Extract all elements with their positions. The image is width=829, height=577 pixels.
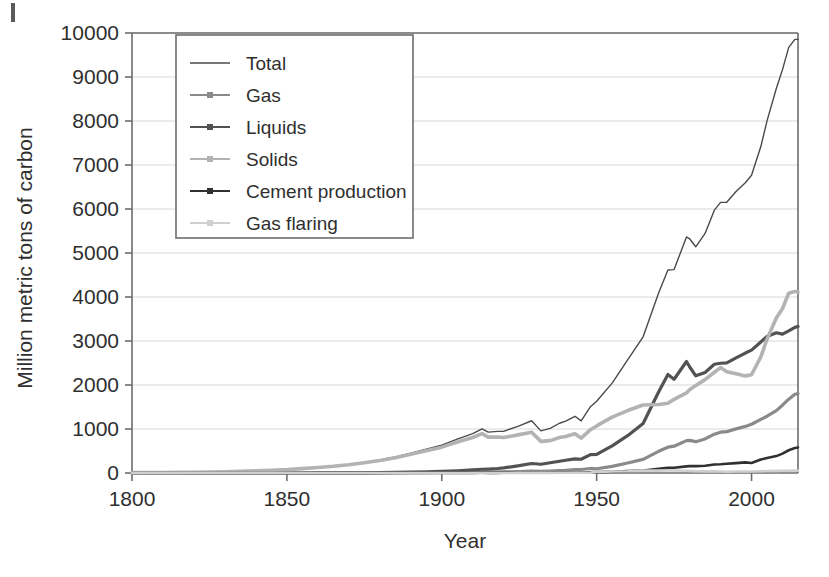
- x-tick-label: 1900: [418, 487, 465, 510]
- legend-label: Gas: [246, 85, 281, 106]
- chart-figure: Million metric tons of carbon Year 01000…: [0, 0, 829, 577]
- series-gas: [132, 394, 798, 473]
- legend-label: Cement production: [246, 181, 407, 202]
- y-axis-ticks: 0100020003000400050006000700080009000100…: [61, 21, 132, 484]
- y-tick-label: 7000: [72, 153, 119, 176]
- legend-label: Liquids: [246, 117, 306, 138]
- legend-label: Solids: [246, 149, 298, 170]
- series-solids: [132, 291, 798, 472]
- legend-swatch-marker: [207, 156, 213, 162]
- y-tick-label: 6000: [72, 197, 119, 220]
- x-axis-ticks: 18001850190019502000: [109, 473, 775, 510]
- y-tick-label: 1000: [72, 417, 119, 440]
- legend-swatch-marker: [207, 220, 213, 226]
- y-tick-label: 9000: [72, 65, 119, 88]
- emissions-line-chart: Million metric tons of carbon Year 01000…: [0, 0, 829, 577]
- x-tick-label: 1950: [573, 487, 620, 510]
- chart-legend: TotalGasLiquidsSolidsCement productionGa…: [176, 35, 413, 238]
- y-tick-label: 5000: [72, 241, 119, 264]
- series-line: [132, 291, 798, 472]
- series-liquids: [132, 326, 798, 473]
- legend-swatch-marker: [207, 124, 213, 130]
- series-line: [132, 394, 798, 473]
- x-axis-title: Year: [444, 529, 486, 552]
- y-tick-label: 4000: [72, 285, 119, 308]
- legend-swatch-marker: [207, 188, 213, 194]
- legend-swatch-marker: [207, 92, 213, 98]
- series-line: [132, 326, 798, 473]
- y-tick-label: 10000: [61, 21, 119, 44]
- legend-label: Gas flaring: [246, 213, 338, 234]
- legend-label: Total: [246, 53, 286, 74]
- y-tick-label: 3000: [72, 329, 119, 352]
- x-tick-label: 1800: [109, 487, 156, 510]
- y-tick-label: 0: [107, 461, 119, 484]
- x-tick-label: 1850: [264, 487, 311, 510]
- y-axis-title: Million metric tons of carbon: [13, 127, 36, 388]
- x-tick-label: 2000: [728, 487, 775, 510]
- y-tick-label: 2000: [72, 373, 119, 396]
- page-edge-artifact: [11, 3, 15, 22]
- y-tick-label: 8000: [72, 109, 119, 132]
